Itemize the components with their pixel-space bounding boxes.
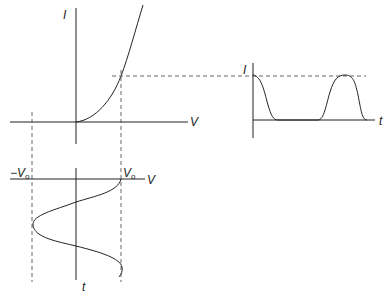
- vt-right-marker: Vo: [123, 166, 136, 181]
- current-time-plot: [253, 63, 375, 138]
- iv-y-label: I: [63, 8, 67, 22]
- vt-t-label: t: [82, 280, 86, 293]
- iv-curve: [76, 5, 143, 122]
- it-curve: [253, 75, 367, 120]
- iv-x-label: V: [190, 115, 199, 129]
- iv-plot: [10, 5, 188, 144]
- vt-curve: [33, 179, 122, 277]
- it-y-label: I: [243, 63, 247, 77]
- vt-x-label: V: [147, 173, 156, 187]
- projection-lines: [32, 70, 366, 282]
- voltage-time-plot: [10, 168, 145, 280]
- diagram-svg: I V I t −Vo Vo V t: [0, 0, 389, 293]
- vt-left-marker: −Vo: [10, 166, 30, 181]
- it-x-label: t: [379, 114, 383, 128]
- diagram-canvas: I V I t −Vo Vo V t: [0, 0, 389, 293]
